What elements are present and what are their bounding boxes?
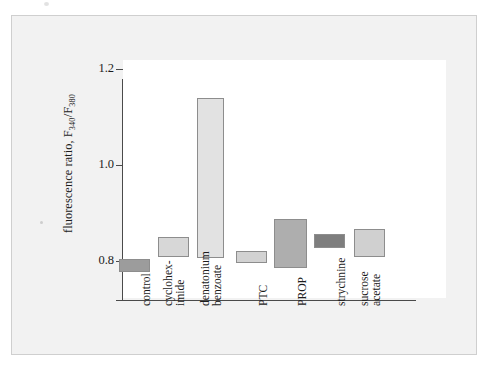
y-axis-tick-label-wrap: 1.0 [74, 165, 114, 166]
x-axis-label-ptc: PTC [258, 186, 270, 306]
x-axis-label-line1: cyclohex- [162, 260, 175, 306]
x-axis-label-strychnine: strychnine [336, 186, 348, 306]
x-axis-label-line1: PROP [296, 277, 309, 306]
x-axis-label-line1: denatonium [199, 251, 212, 306]
x-axis-label-line1: strychnine [335, 258, 348, 306]
y-axis-tick-label: 1.2 [78, 62, 114, 75]
x-axis-label-prop: PROP [297, 186, 309, 306]
y-axis-title-slash: /F [61, 107, 75, 117]
x-axis-label-line2: acetate [371, 186, 383, 306]
y-axis-title-sub-380: 380 [67, 94, 76, 107]
y-axis-tick-mark [116, 69, 123, 70]
y-axis-title-main: fluorescence ratio, F [61, 130, 75, 233]
x-axis-label-cyclohex-: cyclohex-imide [163, 186, 187, 306]
x-axis-label-line1: control [140, 273, 153, 306]
x-axis-label-line1: sucrose [358, 271, 371, 306]
x-axis-label-line2: imide [175, 186, 187, 306]
y-axis-tick-mark [116, 165, 123, 166]
x-axis-label-sucrose: sucroseacetate [359, 186, 383, 306]
scan-speck-icon [44, 2, 49, 6]
x-axis-label-denatonium: denatoniumbenzoate [200, 186, 224, 306]
y-axis-title: fluorescence ratio, F340/F380 [61, 64, 76, 264]
x-axis-label-control: control [141, 186, 153, 306]
y-axis-tick-label: 1.0 [78, 158, 114, 171]
chart-panel: 1.21.00.8 fluorescence ratio, F340/F380 … [11, 15, 477, 355]
y-axis-tick-label: 0.8 [78, 254, 114, 267]
x-axis-label-line1: PTC [257, 285, 270, 306]
figure: 1.21.00.8 fluorescence ratio, F340/F380 … [0, 0, 490, 367]
y-axis-title-sub-340: 340 [67, 117, 76, 130]
x-axis-label-line2: benzoate [212, 186, 224, 306]
y-axis-tick-label-wrap: 0.8 [74, 261, 114, 262]
y-axis-tick-label-wrap: 1.2 [74, 69, 114, 70]
scan-speck-secondary-icon [40, 221, 43, 224]
